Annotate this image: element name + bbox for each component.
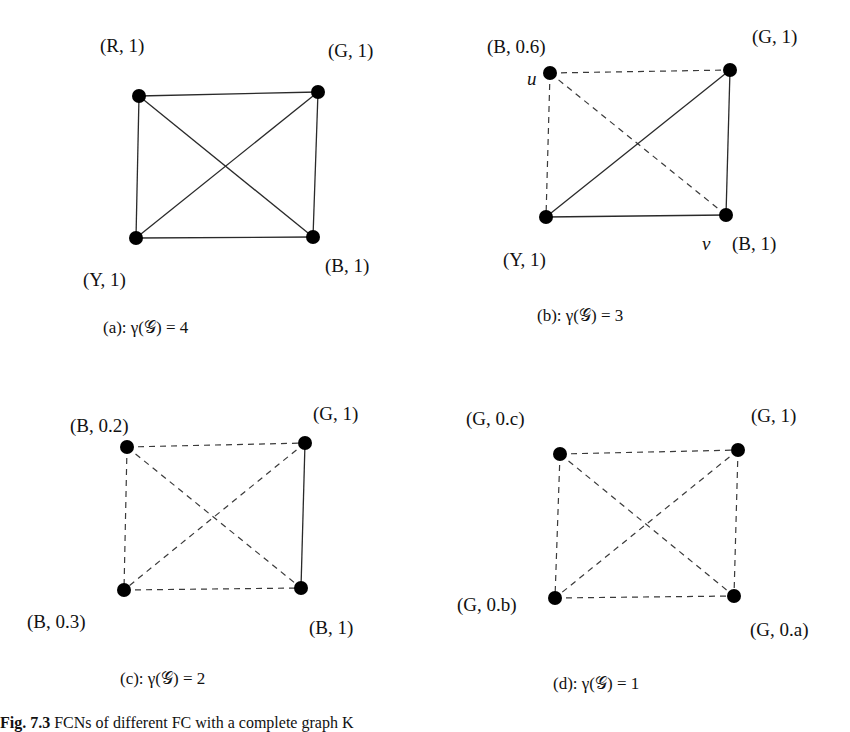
edge-bl-br <box>124 588 301 590</box>
edge-tr-bl <box>136 92 318 238</box>
vertex-label: (B, 1) <box>732 233 776 255</box>
vertex-name: v <box>702 233 711 254</box>
vertex-tr <box>723 63 737 77</box>
panel-caption: (d): γ(𝒢) = 1 <box>553 674 639 693</box>
vertex-br <box>719 208 733 222</box>
vertex-br <box>306 230 320 244</box>
graph-panel-a: (R, 1)(G, 1)(Y, 1)(B, 1)(a): γ(𝒢) = 4 <box>83 35 373 337</box>
vertex-bl <box>129 231 143 245</box>
vertex-bl <box>548 591 562 605</box>
vertex-label: (B, 0.3) <box>27 611 86 633</box>
vertex-label: (G, 0.c) <box>466 408 525 430</box>
vertex-label: (B, 0.2) <box>70 415 129 437</box>
vertex-label: (Y, 1) <box>83 269 126 291</box>
edge-tl-br <box>560 454 734 596</box>
vertex-label: (B, 1) <box>325 255 369 277</box>
edge-tr-br <box>734 450 738 596</box>
vertex-label: (B, 1) <box>309 617 353 639</box>
edge-tl-tr <box>560 450 738 454</box>
vertex-bl <box>117 583 131 597</box>
edge-tr-br <box>301 443 305 588</box>
figure-caption: Fig. 7.3 FCNs of different FC with a com… <box>0 714 353 732</box>
vertex-tr <box>298 436 312 450</box>
edge-tl-tr <box>550 70 730 73</box>
vertex-label: (Y, 1) <box>503 249 546 271</box>
edge-tl-bl <box>555 454 560 598</box>
vertex-label: (G, 0.a) <box>750 619 809 641</box>
vertex-name: u <box>527 68 537 89</box>
edge-bl-br <box>136 237 313 238</box>
vertex-tl <box>543 66 557 80</box>
vertex-label: (G, 1) <box>752 26 797 48</box>
graph-panel-c: (B, 0.2)(G, 1)(B, 0.3)(B, 1)(c): γ(𝒢) = … <box>27 403 358 688</box>
vertex-tl <box>553 447 567 461</box>
edge-bl-br <box>555 596 734 598</box>
vertex-label: (R, 1) <box>100 35 144 57</box>
vertex-tr <box>731 443 745 457</box>
vertex-tl <box>120 440 134 454</box>
edge-tl-bl <box>136 96 139 238</box>
edge-tr-bl <box>124 443 305 590</box>
edge-tl-bl <box>124 447 127 590</box>
panel-caption: (c): γ(𝒢) = 2 <box>120 669 205 688</box>
edge-tl-bl <box>546 73 550 217</box>
vertex-tl <box>132 89 146 103</box>
figure-caption-text: FCNs of different FC with a complete gra… <box>50 714 353 731</box>
edge-tl-br <box>127 447 301 588</box>
vertex-label: (G, 0.b) <box>457 594 517 616</box>
graph-panel-b: (B, 0.6)u(G, 1)(Y, 1)(B, 1)v(b): γ(𝒢) = … <box>487 26 797 325</box>
edge-tr-br <box>726 70 730 215</box>
vertex-br <box>294 581 308 595</box>
vertex-label: (G, 1) <box>751 405 796 427</box>
edge-tl-tr <box>127 443 305 447</box>
edge-tr-bl <box>546 70 730 217</box>
vertex-label: (B, 0.6) <box>487 36 546 58</box>
panel-caption: (b): γ(𝒢) = 3 <box>537 306 623 325</box>
vertex-bl <box>539 210 553 224</box>
vertex-br <box>727 589 741 603</box>
edge-tl-tr <box>139 92 318 96</box>
edge-bl-br <box>546 215 726 217</box>
vertex-label: (G, 1) <box>313 403 358 425</box>
figure-caption-prefix: Fig. 7.3 <box>0 714 50 731</box>
edge-tr-br <box>313 92 318 237</box>
vertex-label: (G, 1) <box>328 40 373 62</box>
graph-panel-d: (G, 0.c)(G, 1)(G, 0.b)(G, 0.a)(d): γ(𝒢) … <box>457 405 809 693</box>
vertex-tr <box>311 85 325 99</box>
panel-caption: (a): γ(𝒢) = 4 <box>103 318 189 337</box>
